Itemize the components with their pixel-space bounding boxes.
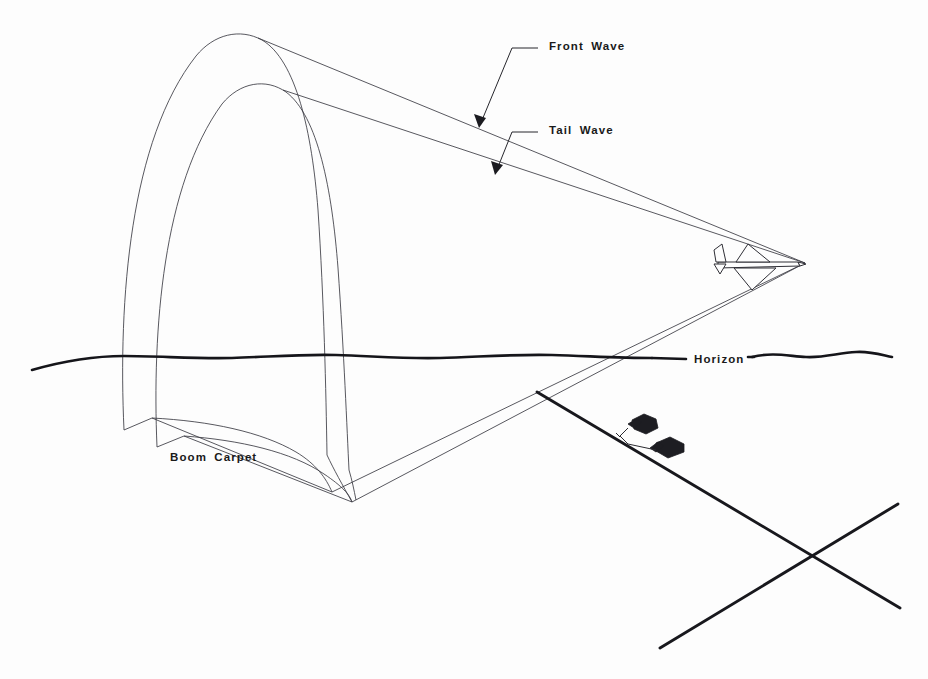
tail-wave-arc [156, 84, 349, 470]
front-wave-surface [123, 34, 805, 492]
aircraft-fuselage [718, 262, 800, 268]
tail-wave-leader [491, 132, 538, 175]
leader-arrow-icon-tail [491, 161, 503, 175]
tail-wave-surface [156, 84, 805, 502]
supersonic-aircraft-icon [714, 244, 806, 290]
tail-wave-label: Tail Wave [549, 124, 614, 136]
horizon-line-right [752, 352, 892, 357]
runway-secondary [660, 504, 898, 648]
sonic-boom-diagram: Front Wave Tail Wave Horizon Boom Carpet [0, 0, 928, 679]
aircraft-delta-wing [734, 268, 776, 290]
building-stand-upper [616, 433, 620, 437]
boom-carpet-label: Boom Carpet [170, 451, 257, 463]
tail-wave-upper-edge [283, 90, 805, 263]
tail-wave-lower-generatrix [352, 263, 805, 502]
tail-wave-leader-line [496, 132, 538, 172]
front-wave-lower-generatrix [332, 263, 805, 492]
front-wave-arc [123, 34, 327, 455]
front-wave-leader [474, 48, 538, 128]
front-wave-label: Front Wave [549, 40, 625, 52]
front-wave-left-edge [124, 418, 152, 430]
diagram-canvas: Front Wave Tail Wave Horizon Boom Carpet [0, 0, 928, 679]
horizon-line-left [32, 355, 652, 370]
horizon-label: Horizon [694, 353, 745, 365]
front-wave-leader-line [480, 48, 538, 125]
aircraft-tail-fin [714, 244, 726, 262]
boom-carpet-tail-curve-inner [349, 470, 356, 500]
airfield-buildings [616, 414, 684, 458]
aircraft-tailplane [714, 264, 726, 274]
tail-wave-left-edge [157, 436, 184, 447]
runway-primary [537, 392, 900, 608]
horizon-group [32, 352, 892, 370]
front-wave-upper-edge [258, 38, 805, 263]
runway-group [537, 392, 900, 648]
horizon-leader-left [652, 358, 686, 359]
